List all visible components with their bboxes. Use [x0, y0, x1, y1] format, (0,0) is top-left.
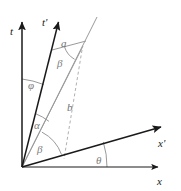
segment-a-label: a: [61, 37, 67, 49]
angle-phi-label: φ: [28, 79, 34, 91]
t-prime-axis-label: t': [42, 16, 48, 28]
x-prime-axis-label: x': [157, 137, 166, 149]
x-axis-label: x: [156, 175, 162, 187]
text-canvas: t t' x x' a b φ β α β θ: [0, 0, 181, 191]
segment-b-label: b: [67, 101, 73, 113]
angle-theta-label: θ: [96, 154, 102, 166]
angle-beta-lower-label: β: [36, 143, 43, 155]
t-axis-label: t: [10, 25, 14, 37]
spacetime-diagram: t t' x x' a b φ β α β θ: [0, 0, 181, 191]
angle-beta-upper-label: β: [56, 57, 63, 69]
angle-alpha-label: α: [34, 119, 40, 131]
